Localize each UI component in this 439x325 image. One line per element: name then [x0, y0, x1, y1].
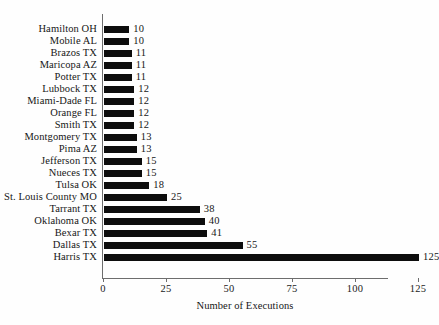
category-label: St. Louis County MO: [4, 191, 97, 203]
category-label: Nueces TX: [49, 167, 97, 179]
category-label: Smith TX: [55, 119, 97, 131]
bar-value-label: 11: [136, 47, 147, 59]
x-axis-title-text: Number of Executions: [196, 300, 293, 311]
x-tick-label: 50: [224, 283, 235, 294]
bar: [104, 194, 167, 201]
x-tick-label: 0: [100, 283, 105, 294]
category-label: Oklahoma OK: [34, 215, 97, 227]
bar-row: Harris TX125: [0, 253, 418, 265]
category-label: Jefferson TX: [41, 155, 97, 167]
bar-value-label: 55: [247, 239, 258, 251]
category-label: Brazos TX: [51, 47, 98, 59]
x-tick: [229, 278, 230, 282]
bar-value-label: 11: [136, 59, 147, 71]
bar: [104, 26, 129, 33]
category-label: Dallas TX: [53, 239, 97, 251]
x-tick: [166, 278, 167, 282]
category-label: Potter TX: [55, 71, 97, 83]
category-label: Miami-Dade FL: [27, 95, 97, 107]
x-tick-label: 25: [161, 283, 172, 294]
x-tick: [292, 278, 293, 282]
bar-value-label: 40: [209, 215, 220, 227]
x-tick-label: 125: [410, 283, 426, 294]
category-label: Tarrant TX: [49, 203, 97, 215]
category-label: Bexar TX: [55, 227, 97, 239]
bar: [104, 38, 129, 45]
bar-value-label: 15: [146, 155, 157, 167]
bar-value-label: 10: [133, 35, 144, 47]
bar-value-label: 13: [141, 131, 152, 143]
x-tick: [418, 278, 419, 282]
bar-value-label: 12: [138, 83, 149, 95]
bar-value-label: 13: [141, 143, 152, 155]
category-label: Maricopa AZ: [40, 59, 97, 71]
bar: [104, 242, 243, 249]
bar: [104, 230, 207, 237]
category-label: Hamilton OH: [38, 23, 97, 35]
bar: [104, 182, 149, 189]
bar-value-label: 12: [138, 107, 149, 119]
bar: [104, 62, 132, 69]
bar: [104, 74, 132, 81]
category-label: Lubbock TX: [42, 83, 97, 95]
bar-value-label: 10: [133, 23, 144, 35]
bar: [104, 206, 200, 213]
x-tick: [103, 278, 104, 282]
bar: [104, 134, 137, 141]
bar-value-label: 12: [138, 95, 149, 107]
bar: [104, 86, 134, 93]
category-label: Montgomery TX: [24, 131, 97, 143]
x-tick-label: 75: [287, 283, 298, 294]
bar-value-label: 15: [146, 167, 157, 179]
bar-value-label: 125: [423, 251, 439, 263]
category-label: Orange FL: [50, 107, 97, 119]
bar: [104, 254, 419, 261]
bar: [104, 98, 134, 105]
bar: [104, 170, 142, 177]
bar: [104, 146, 137, 153]
bar-value-label: 25: [171, 191, 182, 203]
x-tick: [355, 278, 356, 282]
bar-value-label: 11: [136, 71, 147, 83]
bar: [104, 110, 134, 117]
bar-value-label: 18: [153, 179, 164, 191]
category-label: Tulsa OK: [55, 179, 97, 191]
x-axis-title: Number of Executions: [0, 300, 418, 311]
category-label: Harris TX: [53, 251, 97, 263]
category-label: Pima AZ: [59, 143, 97, 155]
bar: [104, 218, 205, 225]
x-tick-label: 100: [347, 283, 363, 294]
bar: [104, 122, 134, 129]
bar: [104, 158, 142, 165]
bar-value-label: 12: [138, 119, 149, 131]
bar-value-label: 38: [204, 203, 215, 215]
x-axis-line: [102, 278, 388, 279]
bar-value-label: 41: [211, 227, 222, 239]
bar: [104, 50, 132, 57]
category-label: Mobile AL: [50, 35, 97, 47]
